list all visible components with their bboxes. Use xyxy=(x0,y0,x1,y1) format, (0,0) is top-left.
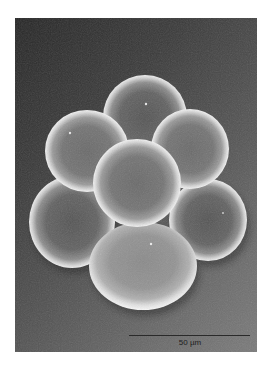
scale-bar xyxy=(129,335,250,336)
page: 50 µm xyxy=(0,0,270,370)
sem-micrograph: 50 µm xyxy=(15,18,257,352)
scale-bar-label: 50 µm xyxy=(165,338,215,348)
sphere-cluster-image xyxy=(15,18,257,352)
grain-overlay xyxy=(15,18,257,352)
